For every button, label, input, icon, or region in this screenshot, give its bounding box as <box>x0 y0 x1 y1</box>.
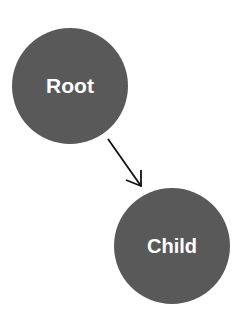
edge-root-child <box>108 139 141 186</box>
node-root: Root <box>12 28 128 144</box>
node-child: Child <box>114 188 230 304</box>
tree-diagram: Root Child <box>0 0 241 318</box>
root-label: Root <box>46 75 94 97</box>
edge-line <box>108 139 141 186</box>
child-label: Child <box>147 235 197 257</box>
